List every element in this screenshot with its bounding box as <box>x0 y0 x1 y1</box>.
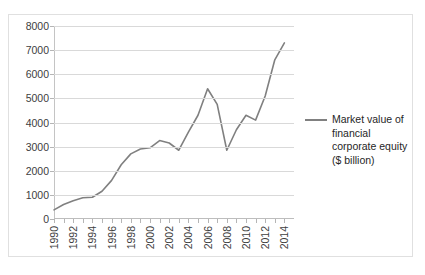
x-axis-tick <box>198 219 199 223</box>
x-axis-tick <box>208 219 209 223</box>
y-axis-tick-label: 8000 <box>26 20 49 32</box>
gridline <box>54 123 294 124</box>
chart-container: 800070006000500040003000200010000 199019… <box>8 14 413 257</box>
y-axis-tick-label: 2000 <box>26 165 49 177</box>
y-axis-tick-label: 4000 <box>26 117 49 129</box>
y-axis-tick-label: 0 <box>43 213 49 225</box>
x-axis-tick <box>140 219 141 223</box>
x-axis-tick-labels: 1990199219941996199820002002200420062008… <box>54 226 294 260</box>
y-axis-tick-label: 6000 <box>26 68 49 80</box>
x-axis-tick-label: 2000 <box>144 226 156 249</box>
x-axis-tick <box>256 219 257 223</box>
y-axis-tick <box>50 50 54 51</box>
x-axis-tick <box>236 219 237 223</box>
gridline <box>54 26 294 27</box>
x-axis-tick <box>92 219 93 223</box>
y-axis-tick <box>50 26 54 27</box>
y-axis-tick-label: 5000 <box>26 92 49 104</box>
gridline <box>54 98 294 99</box>
gridline <box>54 50 294 51</box>
x-axis-tick <box>121 219 122 223</box>
gridline <box>54 171 294 172</box>
x-axis-tick-label: 2002 <box>163 226 175 249</box>
y-axis-tick-label: 7000 <box>26 44 49 56</box>
x-axis-tick-label: 2008 <box>221 226 233 249</box>
legend-entry-label: Market value of financial corporate equi… <box>332 113 411 167</box>
gridline <box>54 147 294 148</box>
gridline <box>54 74 294 75</box>
x-axis-tick <box>112 219 113 223</box>
x-axis-tick <box>169 219 170 223</box>
x-axis-tick <box>265 219 266 223</box>
x-axis-tick <box>160 219 161 223</box>
y-axis-tick-labels: 800070006000500040003000200010000 <box>9 26 49 219</box>
y-axis-tick <box>50 123 54 124</box>
x-axis-tick <box>188 219 189 223</box>
y-axis-tick-label: 3000 <box>26 141 49 153</box>
x-axis-tick-label: 1992 <box>67 226 79 249</box>
data-series-line <box>54 43 284 210</box>
x-axis-tick-label: 1994 <box>86 226 98 249</box>
gridline <box>54 195 294 196</box>
x-axis-tick <box>284 219 285 223</box>
x-axis-tick <box>102 219 103 223</box>
x-axis-tick-label: 2014 <box>278 226 290 249</box>
x-axis-tick-label: 2006 <box>202 226 214 249</box>
x-axis-tick <box>275 219 276 223</box>
x-axis-tick <box>227 219 228 223</box>
y-axis-tick <box>50 195 54 196</box>
x-axis-tick <box>217 219 218 223</box>
chart-legend: Market value of financial corporate equi… <box>305 113 411 167</box>
y-axis-tick <box>50 98 54 99</box>
x-axis-tick <box>150 219 151 223</box>
chart-plot-wrapper: 800070006000500040003000200010000 199019… <box>9 15 414 258</box>
x-axis-tick <box>64 219 65 223</box>
y-axis-tick-label: 1000 <box>26 189 49 201</box>
x-axis-tick <box>54 219 55 223</box>
x-axis-tick-label: 1990 <box>48 226 60 249</box>
x-axis-tick-label: 2012 <box>259 226 271 249</box>
y-axis-tick <box>50 74 54 75</box>
plot-area <box>54 26 294 219</box>
x-axis-tick <box>73 219 74 223</box>
y-axis-tick <box>50 171 54 172</box>
x-axis-tick <box>131 219 132 223</box>
x-axis-tick-label: 2010 <box>240 226 252 249</box>
x-axis-tick <box>83 219 84 223</box>
y-axis-tick <box>50 147 54 148</box>
x-axis-tick-marks <box>54 219 294 224</box>
x-axis-tick <box>179 219 180 223</box>
x-axis-tick <box>246 219 247 223</box>
x-axis-tick-label: 1998 <box>125 226 137 249</box>
x-axis-tick-label: 2004 <box>182 226 194 249</box>
legend-line-swatch <box>305 119 327 121</box>
x-axis-tick-label: 1996 <box>106 226 118 249</box>
